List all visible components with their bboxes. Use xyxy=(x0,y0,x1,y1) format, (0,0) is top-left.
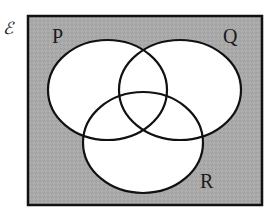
venn-diagram: ℰ P Q R xyxy=(0,0,273,218)
universal-set-symbol: ℰ xyxy=(3,19,15,38)
set-r-label: R xyxy=(200,170,214,192)
set-q-label: Q xyxy=(223,25,238,47)
set-p-label: P xyxy=(52,25,63,47)
